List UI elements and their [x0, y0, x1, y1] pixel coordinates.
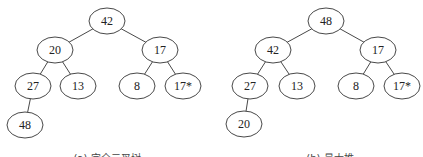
node-label: 48	[320, 14, 332, 28]
max-heap-tree: 4842172713817*20(b) 最大堆	[226, 8, 420, 157]
tree-node: 17*	[384, 73, 420, 99]
node-label: 8	[134, 79, 140, 93]
node-label: 20	[49, 43, 61, 57]
tree-node: 8	[119, 73, 155, 99]
tree-node: 20	[37, 37, 73, 63]
tree-node: 20	[226, 111, 262, 137]
edges	[244, 21, 402, 124]
tree-node: 13	[60, 73, 96, 99]
node-label: 13	[72, 79, 84, 93]
diagram-caption: (b) 最大堆	[306, 152, 353, 157]
node-label: 27	[27, 79, 39, 93]
heap-diagram-canvas: 4220172713817*48(a) 完全二叉树 4842172713817*…	[0, 0, 423, 157]
tree-node: 42	[255, 37, 291, 63]
node-label: 42	[267, 43, 279, 57]
tree-node: 13	[279, 73, 315, 99]
tree-node: 17	[360, 37, 396, 63]
node-label: 8	[353, 79, 359, 93]
tree-node: 27	[232, 73, 268, 99]
node-label: 27	[244, 79, 256, 93]
tree-node: 48	[7, 112, 43, 138]
node-label: 17	[372, 43, 384, 57]
node-label: 17*	[393, 79, 411, 93]
diagram-caption: (a) 完全二叉树	[73, 152, 140, 157]
tree-node: 48	[308, 8, 344, 34]
node-label: 17*	[174, 79, 192, 93]
tree-node: 17	[142, 37, 178, 63]
node-label: 20	[238, 117, 250, 131]
node-label: 48	[19, 118, 31, 132]
node-label: 42	[101, 14, 113, 28]
tree-node: 27	[15, 73, 51, 99]
node-label: 13	[291, 79, 303, 93]
node-label: 17	[154, 43, 166, 57]
tree-node: 17*	[165, 73, 201, 99]
tree-node: 8	[338, 73, 374, 99]
tree-node: 42	[89, 8, 125, 34]
complete-binary-tree: 4220172713817*48(a) 完全二叉树	[7, 8, 201, 157]
